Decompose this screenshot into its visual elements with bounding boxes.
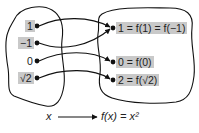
domain-set-boundary: [6, 7, 65, 106]
domain-point-sqrt2: [35, 76, 40, 81]
mapping-arrow-1-to-1: [39, 19, 110, 27]
codomain-label-2: 2 = f(√2): [116, 74, 159, 86]
domain-label-neg1: −1: [18, 37, 34, 49]
domain-label-0: 0: [25, 55, 35, 67]
codomain-point-1: [111, 26, 116, 31]
domain-point-1: [35, 24, 40, 29]
domain-label-sqrt2: √2: [18, 72, 34, 84]
domain-label-1: 1: [25, 20, 35, 32]
caption-function-definition: f(x) = x²: [101, 110, 139, 122]
caption-input-variable: x: [46, 110, 52, 122]
codomain-point-2: [111, 78, 116, 83]
codomain-point-0: [111, 60, 116, 65]
domain-point-0: [35, 59, 40, 64]
mapping-arrow-neg1-to-1: [39, 29, 110, 47]
codomain-label-0: 0 = f(0): [116, 56, 154, 68]
codomain-label-1: 1 = f(1) = f(−1): [116, 22, 187, 34]
domain-point-neg1: [35, 41, 40, 46]
